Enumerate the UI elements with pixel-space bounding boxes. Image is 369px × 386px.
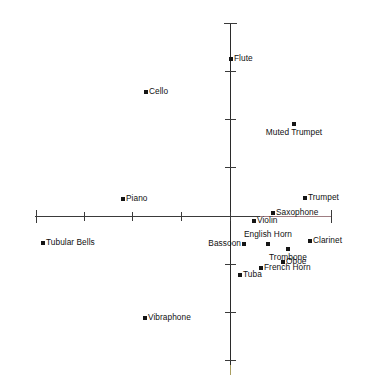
- data-point-label: Cello: [149, 87, 168, 96]
- y-axis-lower-tint: [230, 365, 231, 375]
- y-axis-tick: [225, 360, 236, 361]
- data-point-marker: [266, 242, 270, 246]
- x-axis-tick: [132, 212, 133, 221]
- data-point-label: Muted Trumpet: [249, 128, 339, 137]
- y-axis-tick: [225, 71, 236, 72]
- data-point-marker: [41, 241, 45, 245]
- data-point-marker: [286, 247, 290, 251]
- data-point-marker: [229, 57, 233, 61]
- x-axis-tick: [181, 212, 182, 221]
- x-axis-tick: [84, 212, 85, 221]
- y-axis-tick: [225, 264, 236, 265]
- data-point-label: Tubular Bells: [46, 238, 95, 247]
- data-point-label: Saxophone: [276, 208, 318, 217]
- data-point-marker: [238, 273, 242, 277]
- data-point-marker: [252, 219, 256, 223]
- x-axis-tick: [331, 210, 332, 223]
- data-point-marker: [308, 239, 312, 243]
- data-point-marker: [292, 122, 296, 126]
- x-axis-tick: [36, 210, 37, 223]
- data-point-label: Piano: [126, 194, 147, 203]
- x-axis-tick: [230, 212, 231, 221]
- y-axis-tick: [225, 312, 236, 313]
- data-point-marker: [121, 197, 125, 201]
- data-point-label: Bassoon: [208, 239, 241, 248]
- data-point-marker: [144, 90, 148, 94]
- y-axis-tick: [225, 167, 236, 168]
- data-point-label: Clarinet: [313, 236, 342, 245]
- scatter-plot: FluteCelloMuted TrumpetTrumpetPianoSaxop…: [0, 0, 369, 386]
- y-axis-tick: [224, 23, 237, 24]
- y-axis-line: [230, 23, 231, 375]
- data-point-label: French Horn: [264, 263, 311, 272]
- data-point-label: Trumpet: [308, 193, 339, 202]
- data-point-marker: [143, 316, 147, 320]
- data-point-label: Violin: [257, 216, 277, 225]
- data-point-marker: [303, 196, 307, 200]
- data-point-label: Tuba: [243, 270, 262, 279]
- y-axis-tick: [225, 119, 236, 120]
- data-point-marker: [242, 242, 246, 246]
- data-point-label: Vibraphone: [148, 313, 191, 322]
- data-point-label: Flute: [234, 54, 253, 63]
